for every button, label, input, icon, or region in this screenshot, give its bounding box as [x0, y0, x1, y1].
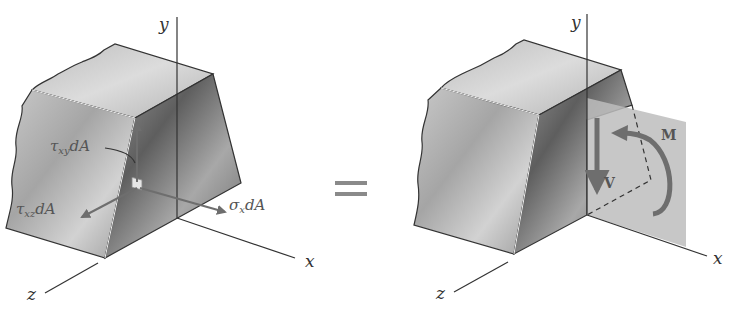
left-z-axis [45, 263, 98, 293]
tau-xy-suffix: dA [70, 137, 90, 155]
left-block [6, 44, 241, 258]
diagram-canvas [0, 0, 739, 316]
left-z-axis-label: z [27, 286, 36, 303]
moment-label: M [661, 128, 677, 142]
tau-xz-suffix: dA [35, 200, 55, 218]
equals-sign [335, 181, 367, 203]
sigma-x-symbol: σ [229, 196, 239, 214]
right-x-axis-label: x [713, 250, 723, 267]
left-x-axis [177, 218, 295, 258]
right-y-axis-label: y [571, 14, 581, 31]
tau-xz-subscript: xz [24, 208, 35, 219]
sigma-x-label: σxdA [229, 198, 265, 215]
tau-xy-label: τxydA [50, 139, 90, 156]
shear-force-label: V [604, 176, 615, 190]
left-x-axis-label: x [305, 253, 315, 270]
right-z-axis [454, 262, 508, 292]
left-y-axis-label: y [159, 16, 169, 33]
tau-xy-subscript: xy [58, 145, 69, 156]
sigma-x-suffix: dA [245, 196, 265, 214]
right-z-axis-label: z [436, 285, 445, 302]
tau-xz-label: τxzdA [16, 202, 56, 219]
